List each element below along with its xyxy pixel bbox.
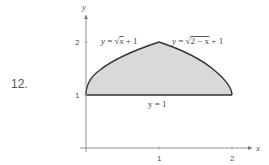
y-tick-label-2: 2 bbox=[75, 38, 80, 47]
y-axis-label: y bbox=[81, 2, 86, 12]
label-sqrt-2-minus-x: y = √2 − x + 1 bbox=[171, 36, 223, 46]
x-axis-label: x bbox=[255, 143, 260, 153]
y-tick-label-1: 1 bbox=[75, 91, 80, 100]
shaded-region bbox=[86, 42, 232, 95]
x-tick-label-2: 2 bbox=[230, 154, 235, 163]
graph: y x 1 2 1 2 y = √x + 1 y = √2 − x + 1 y … bbox=[0, 0, 269, 165]
x-tick-label-1: 1 bbox=[157, 154, 162, 163]
label-y-equals-1: y = 1 bbox=[148, 99, 167, 109]
label-sqrt-x: y = √x + 1 bbox=[100, 36, 138, 46]
